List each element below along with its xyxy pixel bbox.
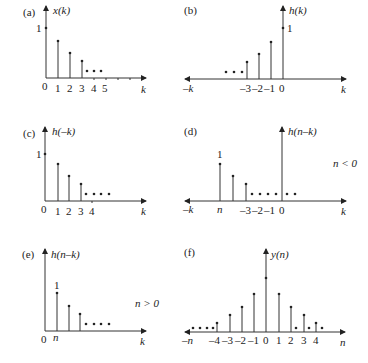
tick-label: 5 [102, 82, 108, 94]
panel-d-left-label: –k [182, 203, 195, 215]
panel-f-ylabel: y(n) [270, 248, 289, 261]
panel-e-tag: (e) [22, 248, 35, 261]
tick-label: 0 [41, 203, 47, 215]
panel-e-condition: n > 0 [135, 297, 159, 309]
tick-label: –2 [251, 82, 263, 94]
panel-e-ylabel: h(n–k) [51, 248, 80, 261]
panel-c: (c) h(–k) 1 0 1 2 3 4 k [23, 125, 147, 217]
tick-label: 3 [79, 82, 85, 94]
tick-label: 2 [67, 82, 73, 94]
tick-label: 4 [313, 334, 319, 346]
panel-b-tag: (b) [184, 4, 197, 17]
panel-a-stems [45, 27, 103, 78]
tick-label: 0 [279, 82, 285, 94]
panel-b-ylabel: h(k) [289, 4, 307, 17]
panel-a-xlabel: k [141, 83, 147, 95]
panel-e-xlabel: k [140, 335, 146, 347]
tick-label: –3 [239, 204, 252, 216]
panel-f-stems [192, 277, 324, 332]
panel-b-left-label: –k [182, 82, 195, 94]
tick-label: 1 [55, 82, 61, 94]
tick-label: –1 [247, 334, 259, 346]
panel-a-unit-label: 1 [36, 22, 42, 34]
panel-d: (d) h(n–k) 1 n < 0 –k n –3 –2 –1 0 k [182, 125, 357, 217]
convolution-diagram: (a) x(k) 1 0 1 2 3 4 5 k (b) h(k) 1 [0, 0, 368, 363]
tick-label: 1 [55, 205, 61, 217]
panel-c-stems [44, 153, 111, 203]
tick-label: –2 [251, 204, 263, 216]
panel-a-tag: (a) [23, 6, 36, 19]
tick-label: –4 [208, 334, 221, 346]
panel-b-stems [225, 27, 285, 79]
panel-d-unit-label: 1 [217, 148, 223, 160]
tick-label: 1 [276, 334, 282, 346]
panel-d-stems [219, 163, 297, 201]
panel-e-origin-label: 0 [41, 333, 47, 345]
tick-label: 0 [42, 80, 48, 92]
panel-d-condition: n < 0 [333, 157, 357, 169]
panel-b-unit-label: 1 [287, 22, 293, 34]
tick-label: –2 [234, 334, 246, 346]
tick-label: –1 [263, 82, 275, 94]
panel-f: (f) y(n) –n –4 –3 –2 –1 0 1 2 3 4 n [181, 246, 346, 348]
tick-label: –3 [239, 82, 252, 94]
tick-label: 3 [301, 334, 307, 346]
panel-c-unit-label: 1 [36, 148, 42, 160]
panel-d-xlabel: k [341, 205, 347, 217]
tick-label: –3 [221, 334, 234, 346]
panel-c-ylabel: h(–k) [52, 125, 76, 138]
panel-c-xlabel: k [141, 205, 147, 217]
panel-e-n-label: n [53, 331, 59, 343]
tick-label: 0 [263, 334, 269, 346]
panel-e: (e) h(n–k) 1 n > 0 0 n k [22, 248, 159, 347]
tick-label: 2 [66, 205, 72, 217]
tick-label: –1 [263, 204, 275, 216]
panel-e-unit-label: 1 [54, 279, 60, 291]
panel-a: (a) x(k) 1 0 1 2 3 4 5 k [23, 4, 147, 95]
panel-b: (b) h(k) 1 –k –3 –2 –1 0 k [182, 4, 347, 95]
panel-f-left-label: –n [181, 334, 194, 346]
panel-d-tag: (d) [184, 125, 197, 138]
tick-label: 4 [91, 82, 97, 94]
panel-d-n-label: n [217, 203, 223, 215]
tick-label: 3 [78, 205, 84, 217]
panel-f-tag: (f) [184, 246, 195, 259]
panel-f-xlabel: n [340, 336, 346, 348]
panel-e-stems [56, 292, 111, 331]
panel-b-xlabel: k [341, 83, 347, 95]
panel-c-tag: (c) [23, 127, 36, 140]
tick-label: 4 [89, 205, 95, 217]
panel-a-ylabel: x(k) [52, 4, 70, 17]
tick-label: 0 [279, 204, 285, 216]
panel-d-ylabel: h(n–k) [288, 125, 317, 138]
tick-label: 2 [288, 334, 294, 346]
